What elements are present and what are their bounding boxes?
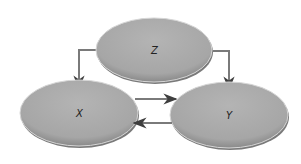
node-x: X [20,80,139,148]
node-z: Z [96,18,213,84]
node-y: Y [170,82,289,150]
node-x-label: X [75,108,84,119]
causal-diagram: Z X Y [0,0,301,164]
edges-xy [134,99,176,123]
node-y-label: Y [226,110,233,121]
node-z-label: Z [150,45,159,56]
